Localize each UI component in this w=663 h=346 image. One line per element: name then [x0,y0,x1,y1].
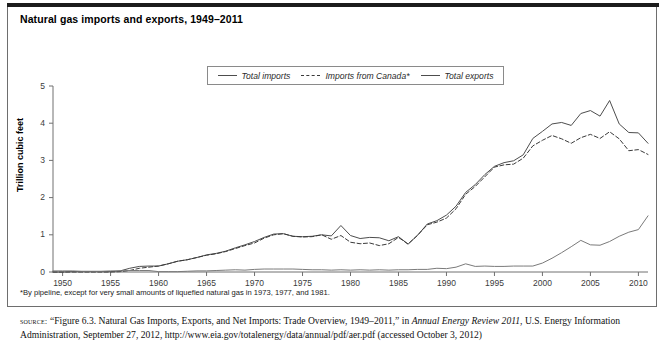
source-publication-title: Annual Energy Review 2011 [412,315,520,326]
figure-container: Natural gas imports and exports, 1949–20… [0,0,663,346]
legend-label: Imports from Canada* [325,71,409,81]
legend-item-total-imports[interactable]: Total imports [218,71,291,81]
x-tick-label: 1950 [43,278,83,288]
solid-line-swatch-icon [421,72,440,80]
x-tick-label: 1995 [474,278,514,288]
x-tick-label: 1985 [378,278,418,288]
solid-line-swatch-icon [218,72,237,80]
x-tick-label: 2010 [618,278,658,288]
x-tick-label: 1965 [187,278,227,288]
dashed-line-swatch-icon [301,72,320,80]
legend-label: Total imports [242,71,291,81]
legend-item-imports-from-canada[interactable]: Imports from Canada* [301,71,409,81]
chart-footnote: *By pipeline, except for very small amou… [20,288,330,297]
x-tick-label: 1970 [235,278,275,288]
x-tick-label: 1975 [283,278,323,288]
y-axis-title: Trillion cubic feet [15,95,25,215]
legend-item-total-exports[interactable]: Total exports [421,71,494,81]
x-tick-label: 1990 [426,278,466,288]
source-text-part1: “Figure 6.3. Natural Gas Imports, Export… [48,315,412,326]
x-tick-label: 1955 [91,278,131,288]
chart-legend: Total imports Imports from Canada* Total… [207,66,504,85]
y-tick-label: 2 [27,192,45,202]
chart-frame [7,7,657,307]
y-tick-label: 0 [27,267,45,277]
x-tick-label: 1980 [331,278,371,288]
page-title: Natural gas imports and exports, 1949–20… [20,13,243,25]
x-tick-label: 1960 [139,278,179,288]
source-citation: source: “Figure 6.3. Natural Gas Imports… [20,314,650,341]
x-tick-label: 2005 [570,278,610,288]
y-tick-label: 4 [27,118,45,128]
y-tick-label: 1 [27,229,45,239]
source-label: source: [20,316,48,326]
x-tick-label: 2000 [522,278,562,288]
legend-label: Total exports [445,71,494,81]
y-tick-label: 3 [27,155,45,165]
y-tick-label: 5 [27,81,45,91]
